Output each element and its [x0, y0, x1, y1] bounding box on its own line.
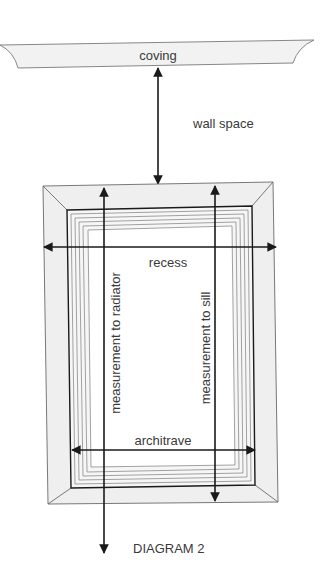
- coving-label: coving: [139, 48, 177, 63]
- sill-label: measurement to sill: [198, 292, 213, 405]
- window-measurement-diagram: coving wall space recess architrave meas…: [0, 0, 322, 581]
- diagram-caption: DIAGRAM 2: [133, 541, 205, 556]
- window-frame: [43, 182, 278, 504]
- wall-space-label: wall space: [192, 116, 254, 131]
- architrave-label: architrave: [134, 433, 191, 448]
- recess-label: recess: [149, 255, 188, 270]
- radiator-label: measurement to radiator: [108, 272, 123, 414]
